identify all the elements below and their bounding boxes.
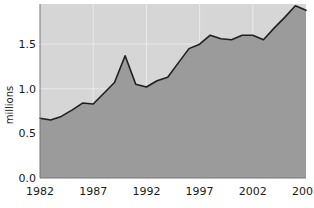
y-tick-label: 0.0: [19, 172, 37, 185]
y-axis-title: millions: [4, 86, 15, 125]
x-tick-label: 2007: [292, 185, 314, 198]
x-tick-label: 1992: [132, 185, 160, 198]
x-tick-label: 1987: [79, 185, 107, 198]
y-tick-label: 1.5: [19, 38, 37, 51]
x-tick-label: 1997: [186, 185, 214, 198]
area-chart: 0.00.51.01.5 198219871992199720022007 mi…: [0, 0, 314, 208]
y-tick-label: 0.5: [19, 127, 37, 140]
chart-canvas: 0.00.51.01.5 198219871992199720022007 mi…: [0, 0, 314, 208]
x-tick-label: 1982: [26, 185, 54, 198]
y-tick-label: 1.0: [19, 83, 37, 96]
x-tick-label: 2002: [239, 185, 267, 198]
